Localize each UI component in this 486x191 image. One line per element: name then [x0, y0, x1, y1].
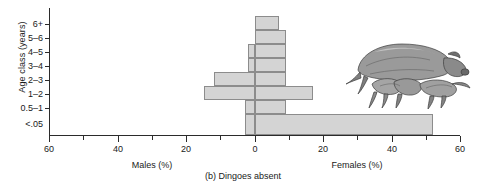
bar-females-3-4 [255, 58, 286, 72]
x-label-40-right: 40 [387, 144, 397, 154]
x-tick-minor-10-left [220, 136, 221, 140]
y-label-3-4: 3–4 [28, 62, 43, 71]
bar-females-5-6 [255, 30, 286, 44]
x-label-0: 0 [252, 144, 257, 154]
bar-females-4-5 [255, 44, 286, 58]
x-label-60-right: 60 [455, 144, 465, 154]
y-tick-3-4 [45, 66, 50, 67]
y-tick-1-2 [45, 94, 50, 95]
y-label-lt.05: <.05 [25, 120, 43, 129]
x-label-40-left: 40 [113, 144, 123, 154]
bar-males-1-2 [204, 86, 255, 100]
y-label-4-5: 4–5 [28, 48, 43, 57]
x-axis-title-males: Males (%) [132, 160, 173, 170]
x-axis-title-females: Females (%) [331, 160, 382, 170]
y-tick-0.5-1 [45, 108, 50, 109]
x-label-20-right: 20 [318, 144, 328, 154]
x-tick-minor-30-left [152, 136, 153, 140]
feral-pig-sow-with-piglets-illustration [336, 32, 478, 110]
bar-females-2-3 [255, 72, 286, 86]
bar-females-0.5-1 [255, 100, 286, 114]
x-label-60-left: 60 [44, 144, 54, 154]
category-row-lt.05: <.05 [49, 114, 460, 135]
y-label-0.5-1: 0.5–1 [20, 104, 43, 113]
x-tick-minor-30-right [357, 136, 358, 140]
y-label-5-6: 5–6 [28, 34, 43, 43]
figure-caption: (b) Dingoes absent [0, 171, 486, 181]
x-tick-40-right [392, 136, 393, 142]
bar-males-2-3 [214, 72, 255, 86]
y-label-6plus: 6+ [33, 20, 43, 29]
y-tick-6plus [45, 24, 50, 25]
x-tick-minor-50-left [83, 136, 84, 140]
y-tick-2-3 [45, 80, 50, 81]
y-axis-title: Age class (years) [17, 0, 27, 117]
x-tick-0 [255, 136, 256, 142]
x-tick-20-left [186, 136, 187, 142]
bar-females-1-2 [255, 86, 313, 100]
x-tick-60-left [49, 136, 50, 142]
bar-males-4-5 [248, 44, 255, 58]
x-tick-20-right [323, 136, 324, 142]
y-label-1-2: 1–2 [28, 90, 43, 99]
y-label-2-3: 2–3 [28, 76, 43, 85]
x-tick-40-left [118, 136, 119, 142]
bar-males-3-4 [248, 58, 255, 72]
y-tick-5-6 [45, 38, 50, 39]
bar-females-6plus [255, 16, 279, 30]
x-tick-minor-50-right [426, 136, 427, 140]
bar-males-lt.05 [245, 114, 255, 135]
x-tick-60-right [460, 136, 461, 142]
x-label-20-left: 20 [181, 144, 191, 154]
y-tick-4-5 [45, 52, 50, 53]
x-tick-minor-10-right [289, 136, 290, 140]
bar-females-lt.05 [255, 114, 433, 135]
figure-dingoes-absent-age-structure: Age class (years) 6+ 5–6 4–5 3–4 [0, 0, 486, 191]
bar-males-0.5-1 [245, 100, 255, 114]
